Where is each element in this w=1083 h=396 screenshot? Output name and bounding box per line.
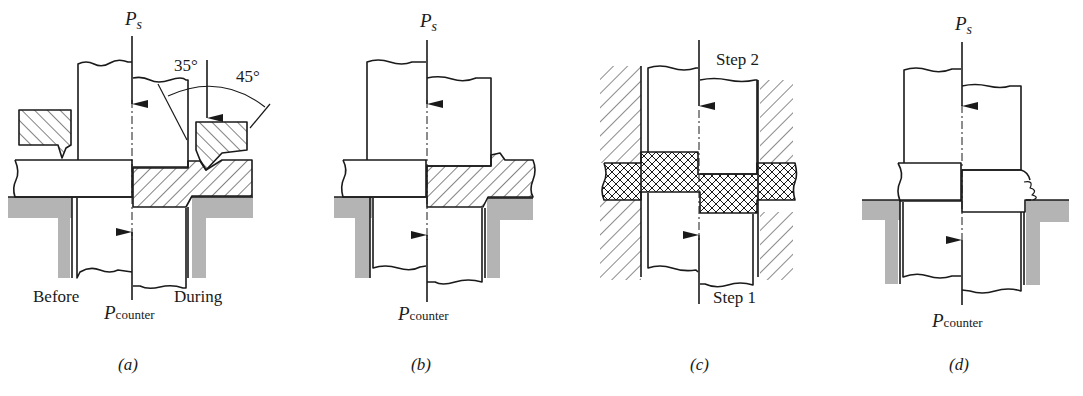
force-subscript: counter xyxy=(410,308,449,323)
force-symbol: P xyxy=(932,310,944,331)
force-subscript: counter xyxy=(116,307,155,322)
label-pcounter-a: Pcounter xyxy=(104,302,155,324)
die-a xyxy=(8,197,253,278)
caption-c: (c) xyxy=(690,355,709,375)
label-before: Before xyxy=(33,287,79,307)
counter-punch-right-a xyxy=(133,208,186,288)
panel-d xyxy=(862,42,1069,305)
label-angle-45: 45° xyxy=(236,67,260,87)
label-ps-a: Ps xyxy=(125,8,142,33)
force-subscript: s xyxy=(967,22,972,37)
label-pcounter-b: Pcounter xyxy=(398,303,449,325)
lower-punch-left-c xyxy=(648,193,698,272)
counter-punch-left-b xyxy=(373,198,426,270)
caption-d: (d) xyxy=(949,355,969,375)
sheet-left-d xyxy=(898,163,961,201)
sheet-left-b xyxy=(342,160,426,197)
label-pcounter-d: Pcounter xyxy=(932,310,983,332)
counter-punch-left-d xyxy=(903,202,961,278)
label-step1: Step 1 xyxy=(713,288,756,308)
counter-punch-right-d xyxy=(962,212,1021,293)
label-step2: Step 2 xyxy=(716,50,759,70)
blankholder-before-a xyxy=(19,110,71,158)
upper-punch-right-d xyxy=(962,85,1021,171)
force-subscript: s xyxy=(432,19,437,34)
force-symbol: P xyxy=(420,10,432,31)
counter-punch-right-b xyxy=(427,208,482,284)
burr-d xyxy=(1024,182,1036,200)
lower-punch-right-c xyxy=(700,214,753,287)
force-symbol: P xyxy=(125,8,137,29)
label-during: During xyxy=(174,287,222,307)
caption-b: (b) xyxy=(411,355,431,375)
sheet-right-d xyxy=(962,170,1031,212)
upper-punch-left-c xyxy=(648,66,698,152)
label-ps-b: Ps xyxy=(420,10,437,35)
force-symbol: P xyxy=(104,302,116,323)
force-symbol: P xyxy=(398,303,410,324)
force-symbol: P xyxy=(955,13,967,34)
fine-blanking-diagram xyxy=(0,0,1083,396)
sheet-before-a xyxy=(14,160,132,197)
upper-punch-left-b xyxy=(367,60,426,160)
upper-punch-right-c xyxy=(700,79,757,175)
label-angle-35: 35° xyxy=(174,56,198,76)
caption-a: (a) xyxy=(118,355,138,375)
panel-c xyxy=(600,40,797,304)
force-subscript: s xyxy=(137,17,142,32)
upper-punch-left-a xyxy=(78,60,132,160)
panel-a xyxy=(8,36,270,300)
label-ps-d: Ps xyxy=(955,13,972,38)
force-subscript: counter xyxy=(944,315,983,330)
counter-punch-left-a xyxy=(77,198,132,278)
upper-punch-right-b xyxy=(427,77,491,166)
panel-b xyxy=(334,40,535,302)
upper-punch-left-d xyxy=(904,68,961,163)
